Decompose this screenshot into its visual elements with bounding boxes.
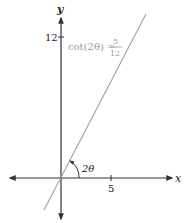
y-tick-label: 12 [45, 32, 58, 43]
equation-lhs: cot(2θ) = [68, 41, 115, 52]
angle-arc [70, 161, 79, 178]
x-axis-label: x [175, 172, 182, 185]
equation-numerator: 5 [113, 37, 118, 46]
y-axis-label: y [56, 3, 65, 16]
x-tick-label: 5 [108, 183, 114, 194]
angle-label: 2θ [81, 163, 94, 174]
coordinate-plane-diagram: y x 12 5 2θ cot(2θ) = 5 12 [0, 0, 185, 223]
equation-denominator: 12 [110, 49, 120, 58]
